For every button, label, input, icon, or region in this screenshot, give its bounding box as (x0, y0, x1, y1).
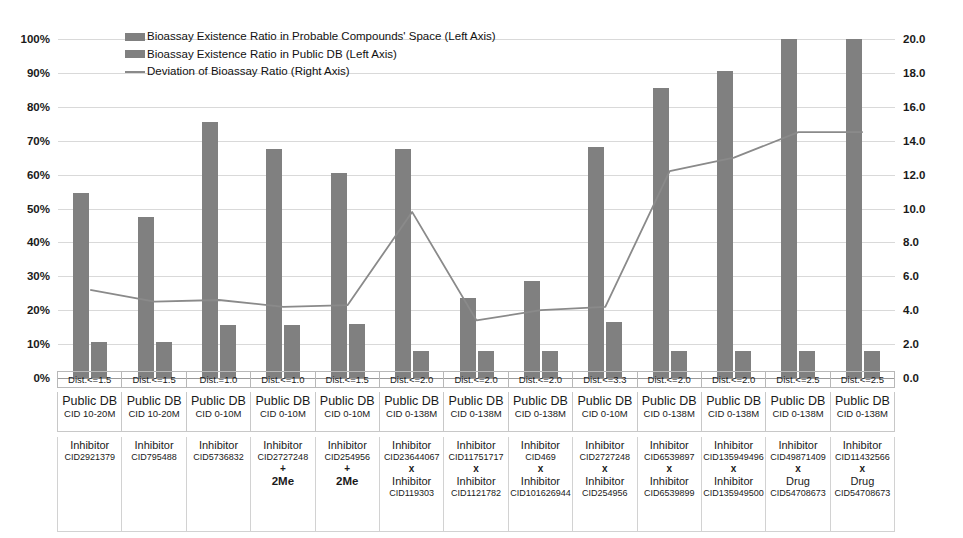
inhibitor-kind: Inhibitor (316, 439, 379, 452)
inhibitor-cid: CID2727248 (573, 452, 636, 463)
publicdb-cid-range: CID 0-138M (831, 408, 894, 419)
right-axis-tick-label: 2.0 (903, 338, 951, 350)
inhibitor-cid: CID2921379 (58, 452, 121, 463)
publicdb-cid-range: CID 10-20M (58, 408, 121, 419)
right-axis-tick-label: 0.0 (903, 372, 951, 384)
xaxis-inhibitor-cell: InhibitorCID2921379 (57, 437, 122, 532)
inhibitor-kind-2: Inhibitor (702, 475, 765, 488)
inhibitor-cid-2: CID54708673 (831, 488, 894, 499)
inhibitor-cid: CID23644067 (380, 452, 443, 463)
inhibitor-cid: CID6539897 (638, 452, 701, 463)
inhibitor-kind: Inhibitor (251, 439, 314, 452)
left-axis-tick-label: 100% (4, 33, 50, 45)
right-axis-tick-label: 16.0 (903, 101, 951, 113)
publicdb-title: Public DB (380, 394, 443, 408)
inhibitor-kind: Inhibitor (58, 439, 121, 452)
publicdb-title: Public DB (766, 394, 829, 408)
publicdb-title: Public DB (122, 394, 185, 408)
legend-bar-swatch-icon (125, 50, 145, 58)
xaxis-inhibitor-cell: InhibitorCID49871409xDrugCID54708673 (765, 437, 830, 532)
xaxis-distance-cell: Dist.<=2.0 (637, 371, 702, 388)
publicdb-cid-range: CID 0-138M (380, 408, 443, 419)
xaxis-inhibitor-cell: InhibitorCID135949496xInhibitorCID135949… (701, 437, 766, 532)
legend-bar-swatch-icon (125, 33, 145, 41)
xaxis-distance-cell: Dist.<=2.0 (379, 371, 444, 388)
right-axis-tick-label: 12.0 (903, 169, 951, 181)
left-axis-tick-label: 70% (4, 135, 50, 147)
xaxis-distance-cell: Dist.<=1.0 (250, 371, 315, 388)
inhibitor-operator: x (573, 463, 636, 475)
xaxis-publicdb-row: Public DBCID 10-20MPublic DBCID 10-20MPu… (58, 392, 895, 432)
xaxis-publicdb-cell: Public DBCID 0-138M (508, 392, 573, 432)
inhibitor-operator: + (316, 463, 379, 475)
deviation-line-series (58, 39, 895, 378)
publicdb-title: Public DB (638, 394, 701, 408)
right-axis: 0.02.04.06.08.010.012.014.016.018.020.0 (903, 39, 961, 378)
legend-label: Bioassay Existence Ratio in Probable Com… (147, 28, 496, 46)
left-axis-tick-label: 50% (4, 203, 50, 215)
left-axis-tick-label: 0% (4, 372, 50, 384)
inhibitor-cid-2: CID119303 (380, 488, 443, 499)
inhibitor-cid-2: CID135949500 (702, 488, 765, 499)
inhibitor-operator: x (638, 463, 701, 475)
inhibitor-kind-2: Drug (766, 475, 829, 488)
publicdb-title: Public DB (316, 394, 379, 408)
xaxis-publicdb-cell: Public DBCID 0-138M (830, 392, 895, 432)
xaxis-inhibitor-cell: InhibitorCID11432566xDrugCID54708673 (830, 437, 895, 532)
inhibitor-cid-2: CID54708673 (766, 488, 829, 499)
xaxis-inhibitor-row: InhibitorCID2921379InhibitorCID795488Inh… (58, 437, 895, 532)
inhibitor-operator: x (831, 463, 894, 475)
xaxis-inhibitor-cell: InhibitorCID5736832 (186, 437, 251, 532)
legend-label: Deviation of Bioassay Ratio (Right Axis) (147, 63, 350, 81)
inhibitor-kind-2: Inhibitor (444, 475, 507, 488)
inhibitor-kind-2: Inhibitor (380, 475, 443, 488)
inhibitor-modifier: 2Me (316, 475, 379, 488)
inhibitor-cid: CID135949496 (702, 452, 765, 463)
right-axis-tick-label: 14.0 (903, 135, 951, 147)
left-axis-tick-label: 20% (4, 304, 50, 316)
inhibitor-kind: Inhibitor (187, 439, 250, 452)
xaxis-distance-cell: Dist.=1.0 (186, 371, 251, 388)
publicdb-cid-range: CID 0-10M (187, 408, 250, 419)
xaxis-inhibitor-cell: InhibitorCID2727248xInhibitorCID254956 (572, 437, 637, 532)
xaxis-inhibitor-cell: InhibitorCID795488 (121, 437, 186, 532)
publicdb-title: Public DB (509, 394, 572, 408)
legend-line-swatch-icon (125, 71, 145, 73)
xaxis-inhibitor-cell: InhibitorCID2727248+2Me (250, 437, 315, 532)
publicdb-title: Public DB (187, 394, 250, 408)
inhibitor-kind: Inhibitor (122, 439, 185, 452)
xaxis-inhibitor-cell: InhibitorCID254956+2Me (315, 437, 380, 532)
publicdb-cid-range: CID 0-10M (573, 408, 636, 419)
inhibitor-cid: CID11432566 (831, 452, 894, 463)
xaxis-publicdb-cell: Public DBCID 0-138M (765, 392, 830, 432)
inhibitor-cid-2: CID101626944 (509, 488, 572, 499)
xaxis-distance-row: Dist.<=1.5Dist.<=1.5Dist.=1.0Dist.<=1.0D… (58, 371, 895, 388)
inhibitor-modifier: 2Me (251, 475, 314, 488)
right-axis-tick-label: 18.0 (903, 67, 951, 79)
left-axis-tick-label: 80% (4, 101, 50, 113)
xaxis-publicdb-cell: Public DBCID 0-10M (186, 392, 251, 432)
inhibitor-cid: CID254956 (316, 452, 379, 463)
legend-item-deviation: Deviation of Bioassay Ratio (Right Axis) (125, 63, 496, 81)
publicdb-title: Public DB (702, 394, 765, 408)
publicdb-cid-range: CID 0-138M (702, 408, 765, 419)
inhibitor-cid: CID2727248 (251, 452, 314, 463)
xaxis-publicdb-cell: Public DBCID 10-20M (57, 392, 122, 432)
publicdb-title: Public DB (831, 394, 894, 408)
inhibitor-operator: + (251, 463, 314, 475)
inhibitor-kind: Inhibitor (509, 439, 572, 452)
xaxis-inhibitor-cell: InhibitorCID6539897xInhibitorCID6539899 (637, 437, 702, 532)
xaxis-publicdb-cell: Public DBCID 0-10M (572, 392, 637, 432)
inhibitor-cid-2: CID6539899 (638, 488, 701, 499)
inhibitor-kind: Inhibitor (831, 439, 894, 452)
right-axis-tick-label: 10.0 (903, 203, 951, 215)
publicdb-cid-range: CID 10-20M (122, 408, 185, 419)
right-axis-tick-label: 8.0 (903, 236, 951, 248)
publicdb-cid-range: CID 0-10M (316, 408, 379, 419)
legend-label: Bioassay Existence Ratio in Public DB (L… (147, 46, 397, 64)
inhibitor-kind: Inhibitor (702, 439, 765, 452)
publicdb-title: Public DB (444, 394, 507, 408)
inhibitor-cid: CID5736832 (187, 452, 250, 463)
xaxis-distance-cell: Dist.<=1.5 (121, 371, 186, 388)
xaxis-publicdb-cell: Public DBCID 10-20M (121, 392, 186, 432)
